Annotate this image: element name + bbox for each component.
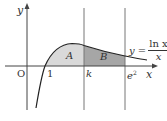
fraction: ln x x [148, 39, 167, 62]
tick-label-e2: e2 [127, 70, 137, 81]
region-b-label: B [100, 52, 107, 62]
diagram-figure: y x O 1 k e2 A B y = ln x x [0, 0, 167, 121]
origin-label: O [17, 69, 25, 79]
x-axis-label: x [146, 69, 152, 80]
tick-label-1: 1 [47, 69, 53, 79]
function-label: y = ln x x [129, 39, 167, 62]
x-axis-arrow-icon [152, 64, 158, 69]
region-a-label: A [66, 51, 73, 61]
y-axis-label: y [17, 5, 23, 16]
tick-label-k: k [86, 69, 92, 79]
y-axis-arrow-icon [25, 3, 30, 9]
